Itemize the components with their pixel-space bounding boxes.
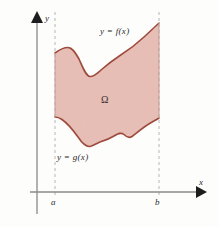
x-axis-label: x (198, 177, 203, 187)
y-axis-arrowhead (31, 11, 43, 23)
diagram-canvas: y x a b y = f(x) y = g(x) Ω (0, 0, 219, 227)
region-label-omega: Ω (101, 94, 108, 105)
y-axis-label: y (44, 13, 49, 23)
tick-label-a: a (51, 197, 56, 207)
figure-region-between-curves: y x a b y = f(x) y = g(x) Ω (0, 0, 219, 227)
tick-label-b: b (155, 197, 160, 207)
curve-label-g: y = g(x) (56, 152, 88, 162)
curve-label-f: y = f(x) (99, 26, 129, 36)
x-axis-arrowhead (196, 186, 207, 198)
